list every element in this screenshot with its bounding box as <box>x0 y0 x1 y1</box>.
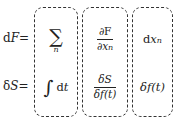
partial-derivative-fraction: ∂F ∂xn <box>82 22 128 56</box>
functional-derivative-fraction: δS δf(t) <box>82 70 128 104</box>
summation-symbol: ∑ n <box>34 24 78 56</box>
integral-symbol: ∫ dt <box>34 75 78 99</box>
fraction-numerator: δS <box>98 74 112 86</box>
variation-delta-f: δf(t) <box>132 78 173 96</box>
fraction-denominator: δf(t) <box>94 89 117 101</box>
row-label-deltaS: δS= <box>3 79 29 93</box>
differential-dx: dxn <box>132 30 173 48</box>
row-label-dF: dF= <box>3 31 29 45</box>
fraction-denominator: ∂xn <box>97 41 114 53</box>
fraction-numerator: ∂F <box>99 26 112 38</box>
column-box-differential <box>132 7 173 117</box>
